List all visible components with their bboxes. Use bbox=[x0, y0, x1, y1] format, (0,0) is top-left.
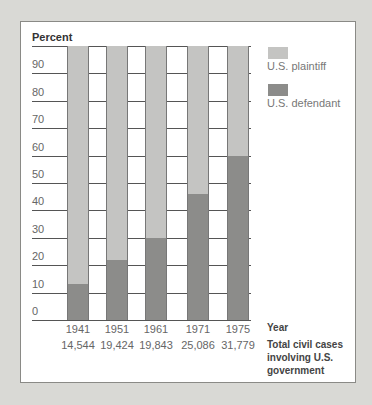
gridline-40 bbox=[32, 210, 251, 211]
cases-label-line1: Total civil cases bbox=[267, 338, 343, 351]
y-tick-label: 30 bbox=[32, 224, 44, 235]
gridline-90 bbox=[32, 73, 251, 74]
bar-1951 bbox=[106, 46, 128, 320]
x-tick-label: 1951 bbox=[95, 323, 139, 335]
y-tick-label: 40 bbox=[32, 196, 44, 207]
gridline-20 bbox=[32, 265, 251, 266]
legend-label-defendant: U.S. defendant bbox=[267, 97, 340, 109]
cases-label-line3: government bbox=[267, 364, 324, 377]
x-tick-label: 1961 bbox=[134, 323, 178, 335]
legend-swatch-defendant bbox=[268, 84, 288, 96]
gridline-10 bbox=[32, 293, 251, 294]
x-tick-label: 1975 bbox=[216, 323, 260, 335]
bar-segment-defendant bbox=[68, 284, 88, 320]
legend-label-plaintiff: U.S. plaintiff bbox=[267, 60, 326, 72]
gridline-0 bbox=[32, 320, 251, 321]
cases-value: 19,424 bbox=[95, 339, 139, 351]
gridline-80 bbox=[32, 101, 251, 102]
gridline-60 bbox=[32, 156, 251, 157]
bar-segment-plaintiff bbox=[146, 46, 166, 238]
bar-1971 bbox=[187, 46, 209, 320]
bar-segment-defendant bbox=[228, 156, 248, 320]
cases-label-line2: involving U.S. bbox=[267, 351, 333, 364]
gridline-100 bbox=[32, 46, 251, 47]
x-tick-label: 1971 bbox=[176, 323, 220, 335]
gridline-50 bbox=[32, 183, 251, 184]
bar-segment-defendant bbox=[107, 260, 127, 320]
bar-segment-plaintiff bbox=[107, 46, 127, 260]
x-tick-label: 1941 bbox=[56, 323, 100, 335]
cases-value: 19,843 bbox=[134, 339, 178, 351]
y-tick-label: 20 bbox=[32, 251, 44, 262]
bar-1975 bbox=[227, 46, 249, 320]
bar-1941 bbox=[67, 46, 89, 320]
y-axis-label: Percent bbox=[32, 31, 72, 43]
cases-value: 25,086 bbox=[176, 339, 220, 351]
gridline-70 bbox=[32, 128, 251, 129]
y-tick-label: 60 bbox=[32, 142, 44, 153]
x-axis-label: Year bbox=[267, 321, 288, 334]
y-tick-label: 80 bbox=[32, 87, 44, 98]
bar-segment-plaintiff bbox=[228, 46, 248, 156]
cases-value: 31,779 bbox=[216, 339, 260, 351]
bar-segment-plaintiff bbox=[68, 46, 88, 284]
bar-segment-defendant bbox=[188, 194, 208, 320]
bar-segment-defendant bbox=[146, 238, 166, 320]
y-tick-label: 90 bbox=[32, 59, 44, 70]
y-tick-label: 50 bbox=[32, 169, 44, 180]
y-tick-label: 0 bbox=[32, 306, 38, 317]
gridline-30 bbox=[32, 238, 251, 239]
bar-segment-plaintiff bbox=[188, 46, 208, 194]
y-tick-label: 70 bbox=[32, 114, 44, 125]
cases-value: 14,544 bbox=[56, 339, 100, 351]
legend-swatch-plaintiff bbox=[268, 47, 288, 59]
y-tick-label: 10 bbox=[32, 279, 44, 290]
bar-1961 bbox=[145, 46, 167, 320]
